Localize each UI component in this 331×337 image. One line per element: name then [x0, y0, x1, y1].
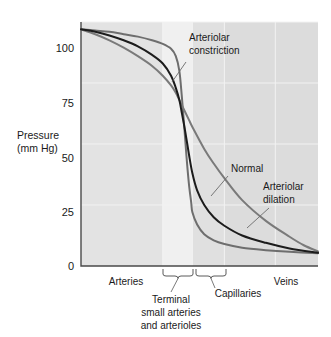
- chart-svg: 100 75 50 25 0 Pressure (mm Hg) Arteries…: [0, 0, 331, 337]
- region-labels: Arteries Terminal small arteries and art…: [109, 276, 298, 331]
- region-label-terminal-line2: small arteries: [141, 307, 200, 318]
- region-label-arteries: Arteries: [109, 276, 143, 287]
- y-axis-title-line2: (mm Hg): [17, 142, 58, 154]
- y-tick-25: 25: [62, 206, 74, 218]
- region-label-veins: Veins: [274, 276, 298, 287]
- bracket-capillaries: [196, 269, 226, 279]
- y-tick-labels: 100 75 50 25 0: [56, 42, 74, 272]
- y-tick-50: 50: [62, 152, 74, 164]
- region-label-terminal-line3: and arterioles: [141, 320, 202, 331]
- region-label-terminal-line1: Terminal: [152, 294, 190, 305]
- y-tick-100: 100: [56, 42, 74, 54]
- pressure-along-vasculature-chart: 100 75 50 25 0 Pressure (mm Hg) Arteries…: [0, 0, 331, 337]
- y-tick-0: 0: [68, 260, 74, 272]
- annotation-constriction-line1: Arteriolar: [189, 32, 230, 43]
- region-label-capillaries: Capillaries: [215, 288, 262, 299]
- y-tick-75: 75: [62, 97, 74, 109]
- y-axis-title: Pressure (mm Hg): [17, 129, 59, 154]
- annotation-normal: Normal: [231, 163, 263, 174]
- annotation-dilation-line2: dilation: [263, 194, 295, 205]
- bracket-terminal-leader: [171, 279, 178, 293]
- bracket-capillaries-leader: [211, 279, 215, 289]
- y-axis-title-line1: Pressure: [17, 129, 59, 141]
- annotation-constriction-line2: constriction: [189, 45, 240, 56]
- annotation-dilation-line1: Arteriolar: [263, 181, 304, 192]
- bracket-terminal: [163, 269, 193, 279]
